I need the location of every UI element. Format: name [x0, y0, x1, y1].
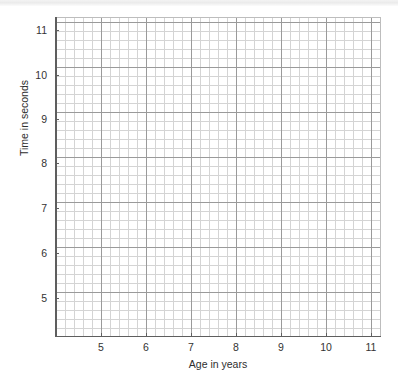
y-tick-label-7: 7 [21, 202, 47, 214]
y-tick-mark [55, 75, 59, 76]
x-axis-label: Age in years [55, 358, 381, 370]
x-tick-label-11: 11 [356, 341, 386, 353]
scan-margin-right [398, 0, 408, 382]
x-tick-mark [191, 333, 192, 337]
grid-lines [55, 17, 381, 337]
x-tick-mark [371, 333, 372, 337]
x-tick-label-10: 10 [311, 341, 341, 353]
x-tick-label-6: 6 [131, 341, 161, 353]
x-tick-mark [101, 333, 102, 337]
axis-spine-right [380, 17, 381, 337]
y-tick-mark [55, 30, 59, 31]
axis-spine-left [55, 17, 57, 337]
y-tick-mark [55, 208, 59, 209]
plot-area [55, 17, 381, 337]
y-axis-label: Time in seconds [18, 38, 30, 198]
x-tick-mark [326, 333, 327, 337]
axis-spine-top [55, 17, 381, 18]
x-tick-label-5: 5 [86, 341, 116, 353]
y-tick-mark [55, 253, 59, 254]
y-tick-label-11: 11 [21, 24, 47, 36]
x-tick-label-7: 7 [176, 341, 206, 353]
y-tick-label-6: 6 [21, 247, 47, 259]
y-tick-mark [55, 119, 59, 120]
x-tick-mark [281, 333, 282, 337]
x-tick-label-8: 8 [221, 341, 251, 353]
y-tick-mark [55, 163, 59, 164]
y-tick-label-5: 5 [21, 292, 47, 304]
y-tick-mark [55, 298, 59, 299]
axis-spine-bottom [55, 336, 381, 338]
x-tick-mark [236, 333, 237, 337]
scan-band [0, 0, 408, 6]
chart-figure: 5 6 7 8 9 10 11 5 6 7 8 9 10 11 Age in y… [0, 0, 408, 382]
x-tick-label-9: 9 [266, 341, 296, 353]
x-tick-mark [146, 333, 147, 337]
